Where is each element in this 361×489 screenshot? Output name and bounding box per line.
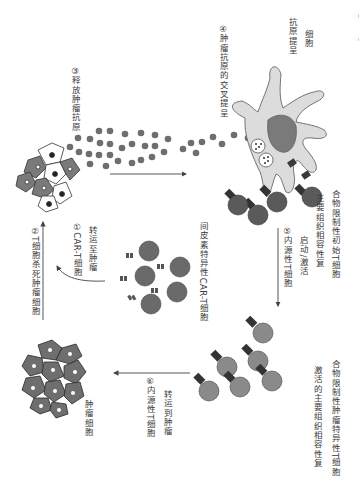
label-step6-line1: ⑥内源性T细胞 — [145, 376, 155, 438]
label-tumor-cells: 肿瘤细胞 — [83, 400, 93, 437]
label-mhc-line1: 主要组织相容性复 — [314, 194, 324, 268]
label-step6-line2: 转运到肿瘤 — [162, 390, 172, 437]
label-step2-kill: ②T细胞杀死肿瘤细胞 — [30, 226, 40, 316]
tumor-cluster — [22, 340, 86, 418]
label-apc-line2: 细胞 — [303, 30, 313, 49]
car-t-cells — [135, 241, 190, 314]
antigen-presenting-cell — [232, 67, 326, 196]
label-step4-cross-presentation: ④肿瘤抗原的交叉提呈 — [218, 24, 228, 118]
scan-edge-artifact — [358, 14, 359, 18]
activated-t-cells — [193, 316, 282, 401]
label-step1-line2: 转运至肿瘤 — [87, 226, 97, 273]
label-activated-line2: 合物限制性肿瘤特异性T细胞 — [330, 360, 340, 477]
label-step5-line2: 启动/激活 — [298, 236, 308, 276]
label-car-t-cells: 间皮素特异性CAR-T细胞 — [198, 222, 208, 323]
naive-t-cells — [224, 184, 322, 225]
tumor-cluster-being-killed — [16, 143, 80, 212]
label-step3-release-antigen: ③释放肿瘤抗原 — [70, 66, 80, 132]
label-step5-line1: ⑤内源性T细胞 — [282, 226, 292, 288]
label-activated-line1: 激活的主要组织相容性复 — [312, 366, 322, 468]
scan-edge-artifact — [358, 38, 359, 41]
label-mhc-line2: 合物限制性初始T细胞 — [330, 190, 340, 279]
label-apc-line1: 抗原提呈 — [287, 18, 297, 55]
label-step1-line1: ①CAR-T细胞 — [72, 222, 82, 277]
tumor-antigens — [67, 128, 252, 170]
